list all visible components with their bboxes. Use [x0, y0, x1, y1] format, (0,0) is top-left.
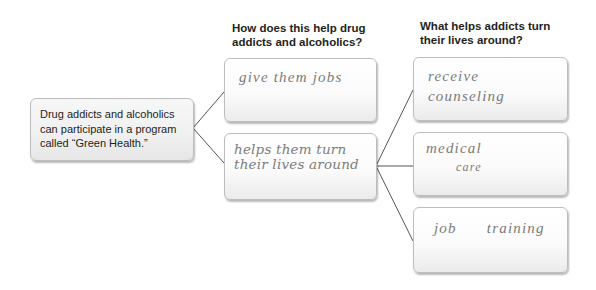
column2-heading: How does this help drug addicts and alco…: [232, 21, 366, 49]
connector-main-to-turn-lives: [193, 128, 224, 163]
answer-word1: job: [434, 218, 457, 238]
column2-heading-line1: How does this help drug: [232, 21, 366, 35]
column2-heading-line2: addicts and alcoholics?: [232, 35, 366, 49]
answer-word2: training: [487, 218, 545, 238]
answer-box-give-them-jobs[interactable]: give them jobs: [224, 58, 377, 122]
answer-line1: receive: [428, 66, 505, 86]
connector-main-to-jobs: [193, 92, 224, 128]
answer-box-counseling[interactable]: receive counseling: [413, 57, 568, 121]
handwritten-answer: receive counseling: [428, 66, 505, 106]
graphic-organizer: Drug addicts and alcoholics can particip…: [0, 0, 596, 290]
connector-to-counseling: [376, 90, 413, 166]
answer-line2: care: [426, 158, 482, 177]
answer-line1: medical: [426, 139, 482, 158]
main-idea-box: Drug addicts and alcoholics can particip…: [30, 98, 194, 161]
column3-heading-line2: their lives around?: [420, 33, 550, 47]
handwritten-answer: medical care: [426, 139, 482, 177]
answer-box-job-training[interactable]: job training: [413, 207, 568, 273]
connector-to-job-training: [376, 166, 413, 241]
answer-text: helps them turn their lives around: [234, 142, 359, 172]
answer-line2: their lives around: [234, 157, 359, 172]
answer-line1: helps them turn: [234, 142, 359, 157]
answer-box-medical-care[interactable]: medical care: [413, 132, 568, 196]
handwritten-answer: give them jobs: [239, 67, 342, 87]
column3-heading: What helps addicts turn their lives arou…: [420, 19, 550, 47]
answer-box-turn-lives-around: helps them turn their lives around: [224, 133, 377, 200]
main-idea-text: Drug addicts and alcoholics can particip…: [40, 107, 187, 151]
handwritten-answer: job training: [434, 218, 545, 238]
answer-line2: counseling: [428, 86, 505, 106]
column3-heading-line1: What helps addicts turn: [420, 19, 550, 33]
